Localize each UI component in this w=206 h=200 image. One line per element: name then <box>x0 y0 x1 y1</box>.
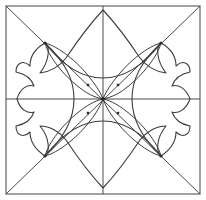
inner-mark-bottom-left <box>87 112 89 114</box>
inner-mark-top-left <box>87 84 89 86</box>
node-top-right <box>159 41 162 44</box>
inner-mark-bottom-right <box>117 112 119 114</box>
node-center <box>101 97 105 101</box>
node-bottom-right <box>159 154 162 157</box>
inner-mark-top-right <box>117 84 119 86</box>
node-bottom-left <box>43 154 46 157</box>
pattern-drawing <box>0 0 206 200</box>
pattern-block <box>0 0 206 200</box>
node-top-left <box>43 41 46 44</box>
